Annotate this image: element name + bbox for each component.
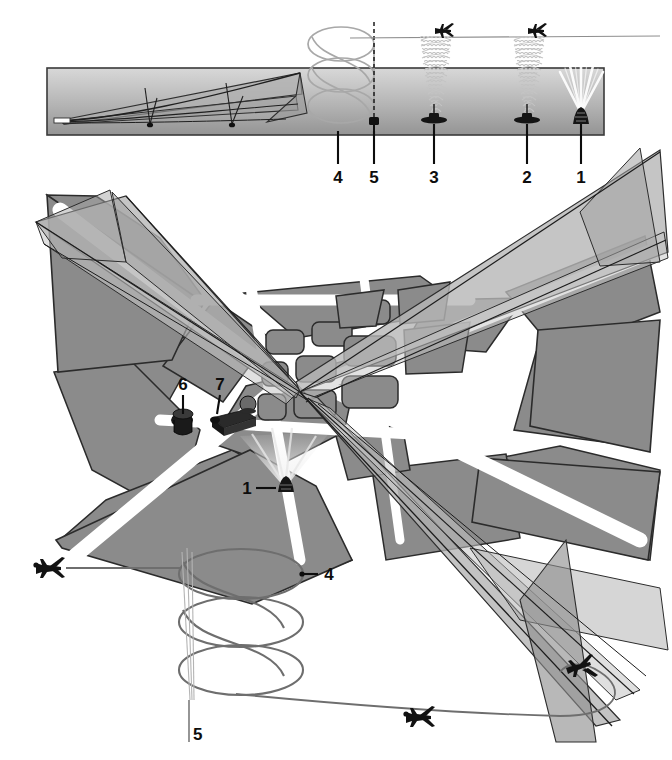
callout-label-1-plan: 1 [242, 479, 251, 498]
aircraft-silhouette [528, 23, 547, 38]
callout-label-1: 1 [576, 168, 585, 187]
elevation-panel: 4 5 3 2 1 [47, 22, 660, 187]
callout-label-7: 7 [215, 375, 224, 394]
callout-label-4: 4 [333, 168, 343, 187]
plan-panel: 6 7 1 [36, 148, 668, 742]
airway-level-line [350, 36, 660, 38]
aircraft-silhouette [33, 557, 65, 578]
aircraft-silhouette [435, 23, 454, 38]
navigation-aids-diagram: 4 5 3 2 1 [0, 0, 672, 760]
elevation-callout-leaders [338, 131, 581, 164]
callout-label-5-pattern: 5 [193, 725, 202, 744]
apron-block [266, 330, 304, 354]
callout-label-2: 2 [522, 168, 531, 187]
apron-block [336, 290, 384, 328]
leader-dot [299, 571, 304, 576]
diagram-canvas: 4 5 3 2 1 [0, 0, 672, 760]
callout-label-5: 5 [369, 168, 378, 187]
outbound-track [236, 694, 560, 716]
callout-label-6: 6 [178, 375, 187, 394]
callout-label-4-pattern: 4 [324, 565, 334, 584]
callout-label-3: 3 [429, 168, 438, 187]
